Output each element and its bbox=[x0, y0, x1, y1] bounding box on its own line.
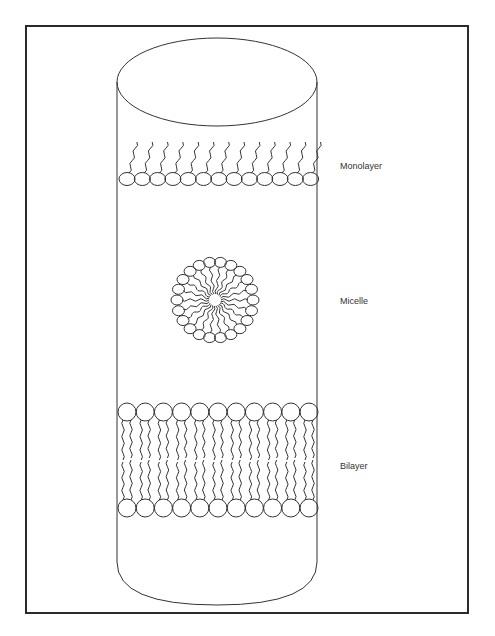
lipid-tail bbox=[221, 299, 248, 302]
lipid-head bbox=[173, 306, 185, 316]
lipid-head bbox=[150, 173, 166, 186]
lipid-head-top bbox=[173, 403, 191, 421]
lipid-head-top bbox=[300, 403, 318, 421]
lipid-head-top bbox=[264, 403, 282, 421]
lipid-head-bottom bbox=[209, 499, 227, 517]
lipid-head-top bbox=[118, 403, 136, 421]
lipid-tail bbox=[221, 420, 224, 458]
lipid-head-bottom bbox=[191, 499, 209, 517]
lipid-tail bbox=[122, 462, 125, 500]
lipid-tail bbox=[122, 420, 125, 460]
lipid-tail bbox=[166, 420, 169, 458]
lipid-tail bbox=[239, 460, 242, 500]
lipid-tail bbox=[213, 420, 216, 460]
cylinder-bottom-arc bbox=[117, 562, 317, 605]
lipid-tail bbox=[297, 142, 306, 173]
lipid-tail bbox=[175, 142, 184, 173]
lipid-head bbox=[257, 173, 273, 186]
lipid-head bbox=[211, 173, 227, 186]
monolayer bbox=[119, 142, 321, 186]
lipid-tail bbox=[176, 420, 179, 460]
cylinder bbox=[117, 38, 317, 605]
lipid-head-bottom bbox=[173, 499, 191, 517]
lipid-tail bbox=[286, 462, 289, 500]
label-bilayer: Bilayer bbox=[340, 461, 368, 471]
lipid-tail bbox=[275, 460, 278, 500]
lipid-tail bbox=[257, 460, 260, 500]
lipid-tail bbox=[130, 420, 133, 458]
lipid-head bbox=[287, 173, 303, 186]
lipid-tail bbox=[251, 142, 260, 173]
lipid-tail bbox=[140, 420, 143, 460]
lipid-tail bbox=[140, 462, 143, 500]
lipid-tail bbox=[184, 420, 187, 458]
lipid-head bbox=[196, 173, 212, 186]
lipid-tail bbox=[221, 460, 224, 500]
lipid-tail bbox=[148, 460, 151, 500]
lipid-head bbox=[246, 306, 258, 316]
lipid-head-bottom bbox=[136, 499, 154, 517]
lipid-tail bbox=[182, 299, 209, 302]
lipid-tail bbox=[267, 462, 270, 500]
lipid-tail bbox=[144, 142, 153, 173]
lipid-tail bbox=[158, 462, 161, 500]
lipid-tail bbox=[195, 420, 198, 460]
lipid-head bbox=[177, 316, 189, 326]
lipid-head-bottom bbox=[154, 499, 172, 517]
lipid-head bbox=[247, 295, 259, 305]
lipid-tail bbox=[231, 420, 234, 460]
lipid-head-top bbox=[245, 403, 263, 421]
lipid-tail bbox=[294, 460, 297, 500]
lipid-head bbox=[241, 173, 257, 186]
lipid-head bbox=[241, 275, 253, 285]
lipid-head bbox=[119, 173, 135, 186]
lipid-head bbox=[165, 173, 181, 186]
lipid-tail bbox=[213, 462, 216, 500]
lipid-head bbox=[214, 333, 226, 343]
lipid-tail bbox=[267, 142, 276, 173]
lipid-tail bbox=[195, 462, 198, 500]
lipid-tail bbox=[176, 462, 179, 500]
label-monolayer: Monolayer bbox=[340, 161, 382, 171]
lipid-tail bbox=[221, 142, 230, 173]
lipid-head bbox=[272, 173, 288, 186]
lipid-head-bottom bbox=[264, 499, 282, 517]
lipid-tail bbox=[158, 420, 161, 460]
lipid-tail bbox=[203, 460, 206, 500]
lipid-tail bbox=[304, 420, 307, 460]
cylinder-top-ellipse bbox=[117, 38, 317, 126]
lipid-tail bbox=[160, 142, 169, 173]
lipid-tail bbox=[236, 142, 245, 173]
lipid-tail bbox=[275, 420, 278, 458]
lipid-tail bbox=[190, 142, 199, 173]
lipid-head bbox=[171, 295, 183, 305]
lipid-head bbox=[134, 173, 150, 186]
lipid-tail bbox=[206, 142, 215, 173]
lipid-head-top bbox=[191, 403, 209, 421]
lipid-head-bottom bbox=[227, 499, 245, 517]
lipid-tail bbox=[249, 462, 252, 500]
lipid-head-top bbox=[227, 403, 245, 421]
lipid-head bbox=[204, 257, 216, 267]
label-micelle: Micelle bbox=[340, 296, 368, 306]
lipid-head-top bbox=[154, 403, 172, 421]
lipid-tail bbox=[203, 420, 206, 458]
lipid-head bbox=[173, 284, 185, 294]
lipid-tail bbox=[219, 275, 237, 295]
lipid-head bbox=[180, 173, 196, 186]
lipid-head-top bbox=[136, 403, 154, 421]
lipid-head-bottom bbox=[282, 499, 300, 517]
lipid-tail bbox=[312, 460, 315, 500]
lipid-tail bbox=[304, 462, 307, 500]
lipid-tail bbox=[294, 420, 297, 458]
lipid-head-bottom bbox=[245, 499, 263, 517]
lipid-head-top bbox=[282, 403, 300, 421]
lipid-head bbox=[303, 173, 319, 186]
lipid-head-bottom bbox=[118, 499, 136, 517]
diagram-canvas bbox=[0, 0, 495, 636]
lipid-tail bbox=[130, 460, 133, 500]
lipid-tail bbox=[129, 142, 138, 173]
lipid-tail bbox=[184, 460, 187, 500]
lipid-tail bbox=[148, 420, 151, 458]
lipid-tail bbox=[166, 460, 169, 500]
